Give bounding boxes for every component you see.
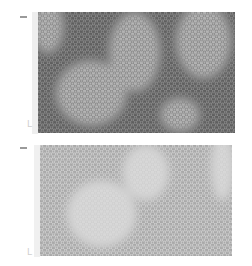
panel-bottom-tick-mark (20, 147, 27, 149)
hexagonal-texture-image-top (38, 12, 235, 133)
hexagonal-texture-image-bottom (40, 145, 232, 256)
panel-top-corner-glyph: L (27, 120, 32, 129)
panel-bottom-corner-glyph: L (27, 248, 32, 257)
panel-top-tick-mark (20, 16, 27, 18)
